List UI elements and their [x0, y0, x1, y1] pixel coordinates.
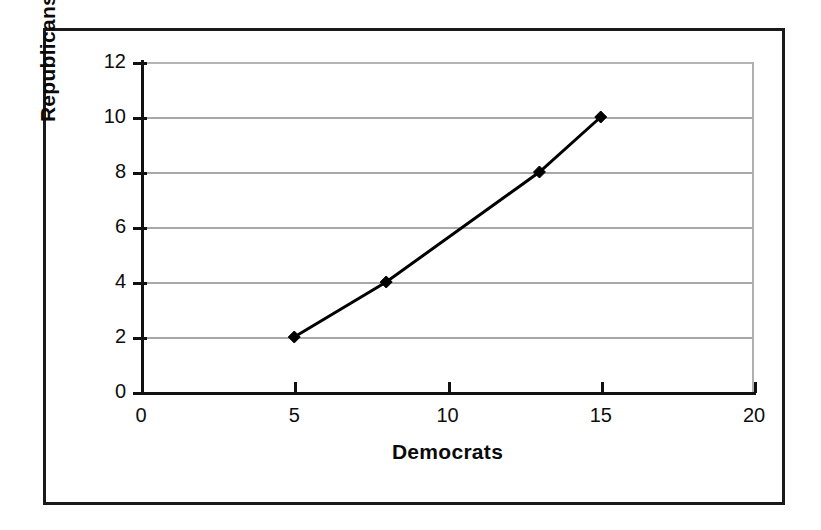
y-tick-label-12: 12: [86, 51, 126, 71]
y-axis-title: Republicans: [36, 0, 64, 158]
gridline-y-8: [141, 172, 754, 174]
plot-right-border: [752, 62, 754, 392]
x-tick-5: [294, 382, 297, 393]
y-tick-label-wrap-12: 12: [82, 51, 126, 71]
y-tick-label-wrap-4: 4: [82, 271, 126, 291]
y-tick-label-6: 6: [86, 216, 126, 236]
x-tick-20: [754, 382, 757, 393]
gridline-y-6: [141, 227, 754, 229]
y-tick-0: [133, 392, 147, 395]
y-tick-10: [133, 117, 147, 120]
gridline-y-12: [141, 62, 754, 64]
y-tick-4: [133, 282, 147, 285]
x-tick-0: [141, 382, 144, 393]
y-tick-label-0: 0: [86, 381, 126, 401]
x-tick-label-0: 0: [111, 404, 171, 426]
y-tick-label-wrap-8: 8: [82, 161, 126, 181]
gridline-y-10: [141, 117, 754, 119]
gridline-y-2: [141, 337, 754, 339]
y-axis-title-label: Republicans: [36, 0, 60, 158]
x-axis-line: [133, 392, 756, 395]
plot-area: [141, 62, 754, 392]
y-tick-label-8: 8: [86, 161, 126, 181]
x-axis-title: Democrats: [141, 440, 754, 464]
gridline-y-4: [141, 282, 754, 284]
y-tick-12: [133, 62, 147, 65]
x-tick-label-5: 5: [264, 404, 324, 426]
y-tick-2: [133, 337, 147, 340]
y-tick-label-wrap-10: 10: [82, 106, 126, 126]
y-tick-8: [133, 172, 147, 175]
y-tick-label-wrap-2: 2: [82, 326, 126, 346]
x-tick-label-20: 20: [724, 404, 784, 426]
x-tick-10: [448, 382, 451, 393]
x-tick-label-15: 15: [571, 404, 631, 426]
figure-root: 024681012 05101520 Republicans Democrats: [0, 0, 821, 530]
x-tick-label-10: 10: [418, 404, 478, 426]
y-tick-label-4: 4: [86, 271, 126, 291]
y-tick-label-2: 2: [86, 326, 126, 346]
y-tick-label-wrap-6: 6: [82, 216, 126, 236]
y-tick-label-wrap-0: 0: [82, 381, 126, 401]
y-tick-6: [133, 227, 147, 230]
y-tick-label-10: 10: [86, 106, 126, 126]
x-tick-15: [601, 382, 604, 393]
